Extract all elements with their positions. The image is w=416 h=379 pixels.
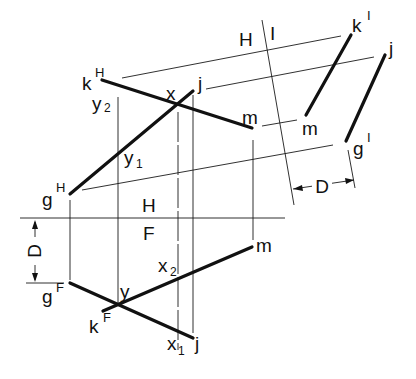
arrow-left-icon [293,185,303,191]
label-x1: x [167,333,177,354]
label-y1-sub: 1 [136,157,143,171]
arrow-up-icon [32,220,38,229]
label-y1: y [124,147,134,168]
label-k-i: k [352,15,362,36]
label-j-h: j [197,73,202,94]
label-k-i-sup: I [367,8,371,23]
label-m-f: m [256,235,272,256]
label-g-h: g [42,189,53,210]
label-j-i: j [388,38,393,59]
label-x: x [166,83,176,104]
label-k-h: k [82,73,92,94]
diagram-canvas: D D k H y 2 x j m y 1 g H H F H I g F k … [0,0,416,379]
label-g-i-sup: I [367,130,371,145]
label-k-h-sup: H [95,65,104,80]
line-gj-aux [346,55,385,141]
label-x2: x [158,255,168,276]
arrow-right-icon [345,178,354,184]
label-x1-sub: 1 [178,344,185,358]
label-y-f: y [120,281,130,302]
arrow-down-icon [32,273,38,282]
line-km-aux [306,35,351,115]
label-fold-h: H [142,195,156,216]
label-m-h: m [242,107,258,128]
label-fold-hi-h: H [239,29,253,50]
line-gj-horizontal [70,91,193,194]
label-d-aux: D [315,176,329,197]
label-d-front: D [24,244,45,258]
projector-k-aux [122,36,341,78]
label-g-i: g [353,138,364,159]
label-k-f: k [89,316,99,337]
diagram-svg: D D k H y 2 x j m y 1 g H H F H I g F k … [0,0,416,379]
label-fold-f: F [143,223,155,244]
label-k-f-sup: F [103,310,111,325]
label-y2-sub: 2 [104,101,111,115]
label-fold-hi-i: I [270,23,275,44]
label-x2-sub: 2 [170,265,177,279]
label-m-i: m [302,118,318,139]
label-g-f: g [42,286,53,307]
label-j-f: j [194,333,199,354]
label-g-f-sup: F [56,280,64,295]
label-y2: y [92,93,102,114]
projector-j-aux [206,57,374,89]
label-g-h-sup: H [56,180,65,195]
